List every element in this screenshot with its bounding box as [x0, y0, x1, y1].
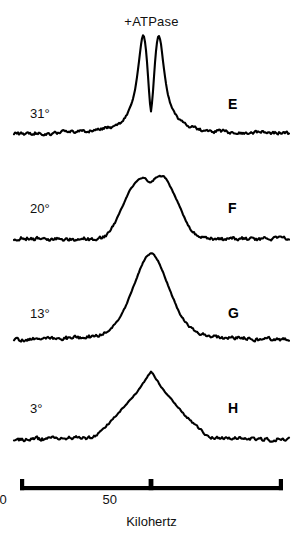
temperature-label-e: 31° [30, 106, 50, 121]
spectrum-trace-e [14, 35, 289, 135]
spectrum-trace-f [14, 176, 289, 241]
axis-bar [0, 470, 303, 500]
axis-endcap-right [279, 479, 283, 490]
frequency-axis: −50050 Kilohertz [0, 470, 303, 530]
panel-letter-e: E [228, 96, 237, 112]
panel-letter-g: G [228, 305, 239, 321]
axis-title: Kilohertz [0, 514, 303, 529]
panel-letter-f: F [228, 200, 237, 216]
nmr-spectra-figure: +ATPase 31°E20°F13°G3°H −50050 Kilohertz [0, 0, 303, 539]
spectrum-trace-g [14, 253, 289, 341]
axis-tick-center [149, 479, 154, 490]
temperature-label-g: 13° [30, 306, 50, 321]
axis-endcap-left [20, 479, 24, 490]
axis-tick-label-2: 50 [103, 492, 117, 507]
axis-tick-label-1: 0 [0, 492, 7, 507]
spectrum-trace-h [14, 372, 289, 442]
spectra-traces [0, 0, 303, 470]
temperature-label-f: 20° [30, 201, 50, 216]
panel-letter-h: H [228, 400, 238, 416]
temperature-label-h: 3° [30, 401, 42, 416]
